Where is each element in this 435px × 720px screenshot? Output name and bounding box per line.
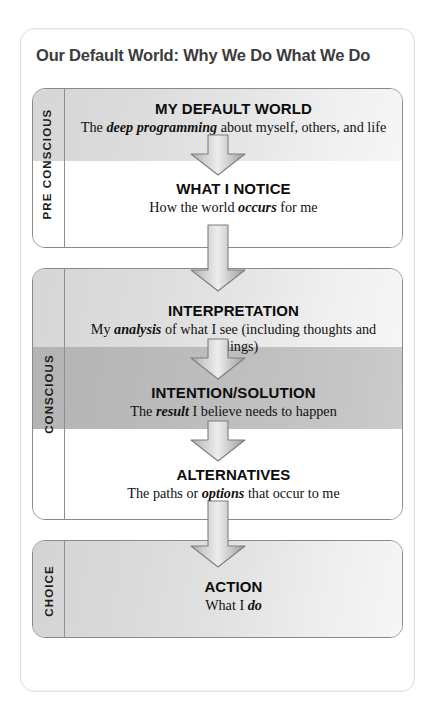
page-title: Our Default World: Why We Do What We Do xyxy=(36,46,370,65)
node-alternatives: ALTERNATIVES The paths or options that o… xyxy=(66,466,401,502)
arrow-intention-to-alternatives-icon xyxy=(190,420,246,462)
node-title-what-i-notice: WHAT I NOTICE xyxy=(66,180,401,197)
node-title-my-default-world: MY DEFAULT WORLD xyxy=(66,100,401,117)
node-title-alternatives: ALTERNATIVES xyxy=(66,466,401,483)
node-intention-solution: INTENTION/SOLUTION The result I believe … xyxy=(66,384,401,420)
arrow-default-to-notice-icon xyxy=(190,134,246,176)
node-what-i-notice: WHAT I NOTICE How the world occurs for m… xyxy=(66,180,401,216)
node-desc-what-i-notice: How the world occurs for me xyxy=(66,199,401,216)
desc-text-before: The xyxy=(81,119,107,135)
section-label-choice: CHOICE xyxy=(43,521,55,661)
arrow-alternatives-to-action-icon xyxy=(190,500,246,568)
desc-text-before: What I xyxy=(205,597,248,613)
node-title-intention-solution: INTENTION/SOLUTION xyxy=(66,384,401,401)
arrow-interpretation-to-intention-icon xyxy=(190,338,246,380)
desc-text-emphasis: deep programming xyxy=(106,119,217,135)
desc-text-before: The paths or xyxy=(127,485,201,501)
node-title-action: ACTION xyxy=(66,578,401,595)
section-label-conscious: CONSCIOUS xyxy=(43,332,55,457)
desc-text-after: that occur to me xyxy=(244,485,339,501)
desc-text-emphasis: result xyxy=(156,403,189,419)
desc-text-after: for me xyxy=(277,199,318,215)
node-desc-action: What I do xyxy=(66,597,401,614)
node-title-interpretation: INTERPRETATION xyxy=(66,302,401,319)
desc-text-after: about myself, others, and life xyxy=(217,119,386,135)
section-label-pre-conscious: PRE CONSCIOUS xyxy=(41,89,53,239)
desc-text-before: The xyxy=(130,403,156,419)
node-desc-intention-solution: The result I believe needs to happen xyxy=(66,403,401,420)
desc-text-before: How the world xyxy=(149,199,238,215)
desc-text-emphasis: occurs xyxy=(238,199,277,215)
desc-text-before: My xyxy=(91,321,114,337)
desc-text-after: I believe needs to happen xyxy=(189,403,337,419)
desc-text-emphasis: options xyxy=(202,485,245,501)
node-action: ACTION What I do xyxy=(66,578,401,614)
desc-text-emphasis: analysis xyxy=(114,321,161,337)
arrow-notice-to-interpretation-icon xyxy=(190,224,246,292)
desc-text-emphasis: do xyxy=(248,597,262,613)
node-my-default-world: MY DEFAULT WORLD The deep programming ab… xyxy=(66,100,401,136)
